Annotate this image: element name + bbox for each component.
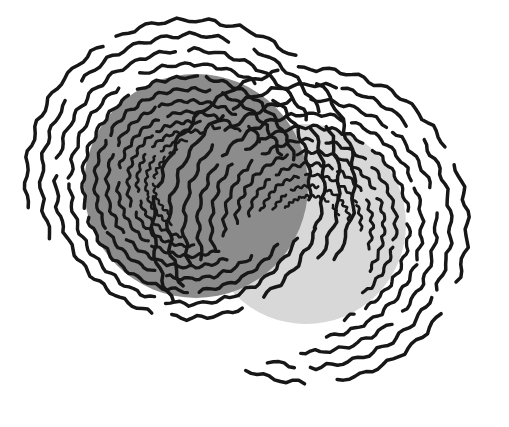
- concentric-rings-figure: [0, 0, 509, 427]
- figure-canvas: Two overlapping shaded discs with concen…: [0, 0, 509, 427]
